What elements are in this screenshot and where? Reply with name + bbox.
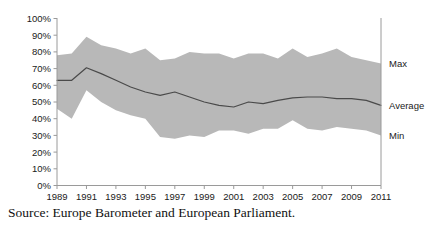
y-axis-tick-label: 40%: [32, 113, 52, 124]
x-axis-tick-label: 2007: [312, 191, 333, 201]
series-label-min: Min: [389, 130, 404, 141]
y-axis-tick-label: 20%: [32, 147, 52, 158]
y-axis-tick-label: 90%: [32, 30, 52, 41]
area-chart-svg: 0%10%20%30%40%50%60%70%80%90%100% 198919…: [0, 0, 440, 200]
x-axis-tick-label: 1999: [194, 191, 215, 201]
x-axis-tick-labels: 1989199119931995199719992001200320052007…: [46, 191, 391, 201]
minmax-band-area: [57, 37, 381, 139]
x-axis-tick-label: 1989: [46, 191, 67, 201]
x-axis-tick-label: 1997: [164, 191, 185, 201]
x-axis-tick-label: 1993: [105, 191, 126, 201]
y-axis-tick-label: 80%: [32, 46, 52, 57]
y-axis-tick-label: 50%: [32, 96, 52, 107]
x-axis-tick-label: 2001: [223, 191, 244, 201]
x-axis-tick-label: 2009: [341, 191, 362, 201]
y-axis-tick-labels: 0%10%20%30%40%50%60%70%80%90%100%: [27, 13, 52, 191]
x-axis-tick-label: 2003: [253, 191, 274, 201]
chart-plot-area: 0%10%20%30%40%50%60%70%80%90%100% 198919…: [0, 0, 440, 200]
y-axis-tick-label: 0%: [37, 180, 51, 191]
series-label-average: Average: [389, 100, 424, 111]
chart-band-group: [57, 37, 381, 139]
chart-figure: 0%10%20%30%40%50%60%70%80%90%100% 198919…: [0, 0, 440, 226]
x-axis-tick-label: 2005: [282, 191, 303, 201]
source-caption: Source: Europe Barometer and European Pa…: [8, 205, 295, 221]
y-axis-tick-label: 100%: [27, 13, 52, 24]
x-axis-tick-label: 1995: [135, 191, 156, 201]
y-axis-tick-label: 10%: [32, 163, 52, 174]
x-axis-tick-label: 2011: [371, 191, 391, 201]
y-axis-tick-label: 60%: [32, 80, 52, 91]
series-inline-labels: MaxAverageMin: [389, 58, 424, 141]
series-label-max: Max: [389, 58, 407, 69]
y-axis-tick-label: 30%: [32, 130, 52, 141]
x-axis-tick-label: 1991: [76, 191, 97, 201]
y-axis-tick-label: 70%: [32, 63, 52, 74]
